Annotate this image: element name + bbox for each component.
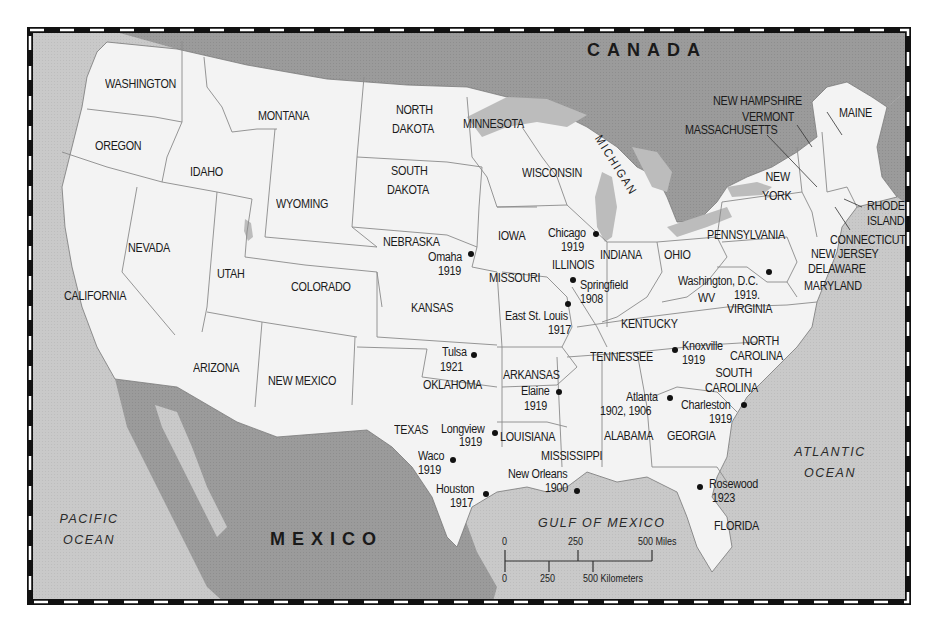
city-dot	[492, 430, 498, 436]
city-dot	[450, 457, 456, 463]
label-delaware: DELAWARE	[808, 263, 866, 276]
label-arkansas: ARKANSAS	[503, 369, 560, 382]
label-colorado: COLORADO	[291, 281, 351, 294]
label-mississippi: MISSISSIPPI	[541, 450, 602, 463]
label-mexico: MEXICO	[270, 533, 383, 546]
city-dot	[741, 402, 747, 408]
label-georgia: GEORGIA	[667, 430, 716, 443]
city-dot	[593, 231, 599, 237]
label-california: CALIFORNIA	[64, 290, 126, 303]
label-montana: MONTANA	[258, 110, 309, 123]
label-arizona: ARIZONA	[193, 362, 239, 375]
scale-miles-250: 250	[568, 536, 583, 547]
label-virginia: VIRGINIA	[727, 303, 772, 316]
label-texas: TEXAS	[394, 424, 428, 437]
city-dot	[468, 251, 474, 257]
label-iowa: IOWA	[498, 230, 525, 243]
label-wisconsin: WISCONSIN	[522, 167, 582, 180]
label-new-mexico: NEW MEXICO	[268, 375, 336, 388]
label-indiana: INDIANA	[600, 249, 642, 262]
label-kentucky: KENTUCKY	[621, 318, 678, 331]
label-missouri: MISSOURI	[489, 272, 540, 285]
label-minnesota: MINNESOTA	[463, 118, 524, 131]
label-maine: MAINE	[839, 107, 872, 120]
label-idaho: IDAHO	[190, 166, 223, 179]
city-dot	[483, 491, 489, 497]
label-kansas: KANSAS	[411, 302, 453, 315]
label-new-jersey: NEW JERSEY	[811, 248, 879, 261]
label-alabama: ALABAMA	[604, 430, 653, 443]
scale-km-0: 0	[502, 573, 507, 584]
city-dot	[565, 301, 571, 307]
city-dot	[766, 269, 772, 275]
label-utah: UTAH	[217, 268, 245, 281]
city-dot	[667, 395, 673, 401]
scale-bar-lines	[475, 540, 675, 600]
label-washington: WASHINGTON	[105, 78, 176, 91]
label-south-carolina: SOUTH CAROLINA	[705, 367, 758, 395]
scale-km-250: 250	[540, 573, 555, 584]
scale-miles-500: 500 Miles	[638, 536, 677, 547]
scale-miles-0: 0	[502, 536, 507, 547]
label-pennsylvania: PENNSYLVANIA	[707, 229, 785, 242]
scale-km-500: 500 Kilometers	[583, 573, 643, 584]
label-nevada: NEVADA	[128, 242, 170, 255]
label-nebraska: NEBRASKA	[383, 236, 440, 249]
label-gulf-of-mexico: GULF OF MEXICO	[538, 517, 666, 530]
label-wyoming: WYOMING	[276, 198, 328, 211]
label-atlantic-ocean: ATLANTIC OCEAN	[790, 446, 870, 480]
label-north-dakota: NORTH DAKOTA	[392, 104, 434, 136]
label-oregon: OREGON	[95, 140, 141, 153]
label-west-virginia: WV	[698, 292, 715, 305]
label-louisiana: LOUISIANA	[500, 431, 555, 444]
label-illinois: ILLINOIS	[552, 259, 594, 272]
city-dot	[471, 352, 477, 358]
label-florida: FLORIDA	[714, 520, 759, 533]
city-dot	[672, 347, 678, 353]
label-south-dakota: SOUTH DAKOTA	[387, 165, 429, 197]
label-canada: CANADA	[587, 44, 707, 57]
scale-bar: 0 250 500 Miles 0 250 500 Kilometers	[475, 540, 675, 600]
city-dot	[697, 484, 703, 490]
label-connecticut: CONNECTICUT	[830, 234, 906, 247]
label-north-carolina: NORTH CAROLINA	[730, 335, 783, 363]
label-tennessee: TENNESSEE	[590, 351, 653, 364]
label-massachusetts: MASSACHUSETTS	[685, 124, 778, 137]
city-dot	[570, 277, 576, 283]
city-dot	[556, 389, 562, 395]
city-dot	[574, 488, 580, 494]
label-new-york: NEW YORK	[762, 171, 792, 203]
label-rhode-island: RHODE ISLAND	[867, 200, 905, 228]
label-pacific-ocean: PACIFIC OCEAN	[56, 513, 122, 547]
label-ohio: OHIO	[664, 249, 691, 262]
label-maryland: MARYLAND	[804, 280, 862, 293]
label-oklahoma: OKLAHOMA	[423, 379, 482, 392]
label-new-hampshire: NEW HAMPSHIRE	[713, 95, 802, 108]
